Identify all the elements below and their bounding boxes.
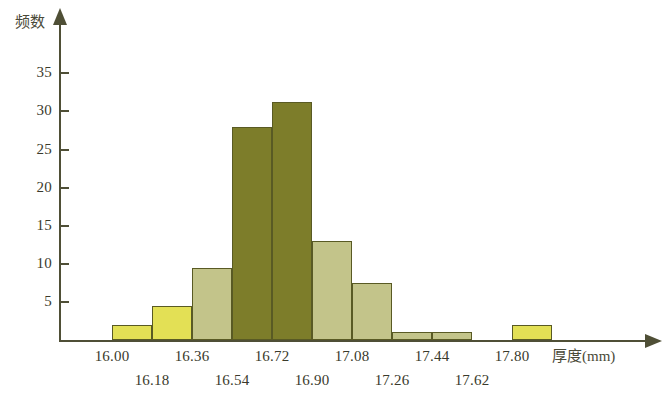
histogram-bar — [512, 325, 552, 340]
histogram-bar — [392, 332, 432, 340]
x-axis-tick-label: 17.62 — [444, 372, 500, 388]
x-axis-tick-label: 16.72 — [244, 348, 300, 364]
histogram-bar — [112, 325, 152, 340]
x-axis-tick-label: 16.18 — [124, 372, 180, 388]
histogram-bar — [192, 268, 232, 340]
histogram-bar — [352, 283, 392, 340]
histogram-bar — [312, 241, 352, 340]
x-axis-tick-label: 17.80 — [484, 348, 540, 364]
x-axis-tick-label: 16.54 — [204, 372, 260, 388]
x-axis-title-text: 厚度 — [552, 347, 582, 365]
x-axis-tick-label: 16.90 — [284, 372, 340, 388]
x-axis-tick-label: 16.00 — [84, 348, 140, 364]
histogram-bar — [272, 102, 312, 341]
histogram-bar — [152, 306, 192, 340]
histogram-bar — [432, 332, 472, 340]
x-axis-tick-label: 17.44 — [404, 348, 460, 364]
x-axis-tick-label: 17.08 — [324, 348, 380, 364]
x-axis-tick-label: 17.26 — [364, 372, 420, 388]
x-axis-title: 厚度(mm) — [552, 348, 615, 364]
x-axis-unit-text: (mm) — [582, 348, 615, 364]
histogram-bar — [232, 127, 272, 340]
histogram-chart: 频数 5101520253035 16.0016.1816.3616.5416.… — [0, 0, 667, 416]
x-axis-tick-label: 16.36 — [164, 348, 220, 364]
